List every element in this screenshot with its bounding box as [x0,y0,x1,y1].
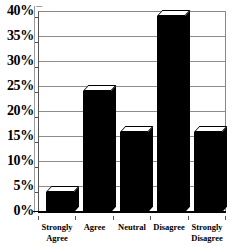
bar-side-face [111,85,116,212]
x-tick-mark [38,216,39,220]
y-tick-label: 0% [0,204,34,218]
x-tick-mark [113,216,114,220]
bar-disagree[interactable] [157,10,185,212]
x-label-neutral: Neutral [113,222,151,233]
x-label-line1: Strongly [38,222,76,233]
y-tick-label: 30% [0,54,34,68]
x-label-line1: Strongly [188,222,226,233]
y-axis: 40% 35% 30% 25% 20% 15% 10% 5% 0% [0,0,34,220]
bar-side-face [222,126,227,212]
bar-side-face [148,126,153,212]
x-tick-mark [225,216,226,220]
bar-neutral[interactable] [120,126,148,212]
bar-side-face [185,10,190,212]
x-label-line2: Agree [38,233,76,244]
x-label-line2: Disagree [188,233,226,244]
y-tick-label: 35% [0,29,34,43]
x-label-strongly-agree: Strongly Agree [38,222,76,244]
x-axis: Strongly Agree Agree Neutral Disagree St… [38,216,226,247]
x-label-disagree: Disagree [150,222,188,233]
bar-front-face [194,132,222,212]
bar-top-face [120,126,153,132]
bar-chart: 40% 35% 30% 25% 20% 15% 10% 5% 0% [0,0,238,247]
y-tick-label: 25% [0,79,34,93]
x-axis-baseline [38,211,226,213]
bars-layer [38,0,226,212]
bar-strongly-disagree[interactable] [194,126,222,212]
x-label-line1: Agree [76,222,113,233]
bar-front-face [120,132,148,212]
y-tick-label: 15% [0,129,34,143]
bar-top-face [46,186,79,192]
x-tick-mark [150,216,151,220]
x-label-agree: Agree [76,222,113,233]
y-tick-label: 40% [0,4,34,18]
y-tick-label: 10% [0,154,34,168]
bar-top-face [83,85,116,91]
y-tick-label: 20% [0,104,34,118]
x-label-strongly-disagree: Strongly Disagree [188,222,226,244]
bar-agree[interactable] [83,85,111,212]
bar-front-face [157,16,185,212]
x-tick-mark [188,216,189,220]
bar-front-face [83,91,111,212]
x-label-line1: Disagree [150,222,188,233]
y-tick-label: 5% [0,179,34,193]
x-tick-mark [75,216,76,220]
bar-top-face [194,126,227,132]
bar-top-face [157,10,190,16]
x-label-line1: Neutral [113,222,151,233]
